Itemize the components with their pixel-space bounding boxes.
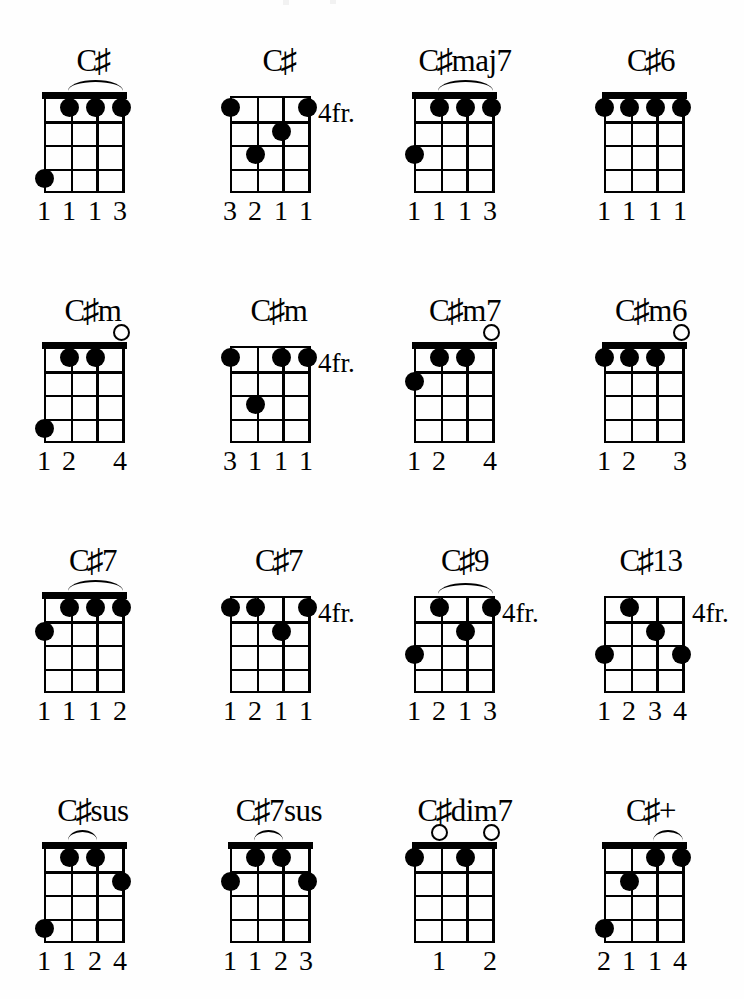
barre-arc [68, 580, 123, 593]
finger-dot [405, 848, 424, 867]
fretboard [414, 846, 495, 943]
finger-dot [35, 419, 54, 438]
finger-number: 1 [295, 696, 317, 726]
nut-bar [228, 842, 313, 849]
chord-cell-Csharp6[interactable]: C♯61111 [558, 40, 744, 290]
chord-root: C [418, 793, 438, 828]
finger-number: 2 [270, 946, 292, 976]
chord-cell-Csharpmaj7[interactable]: C♯maj71113 [372, 40, 558, 290]
chord-row: C♯1113C♯4fr.3211C♯maj71113C♯61111 [0, 40, 744, 290]
chord-cell-Csharp7[interactable]: C♯74fr.1211 [186, 540, 372, 790]
chord-name: C♯maj7 [372, 44, 558, 78]
nut-bar [42, 592, 127, 599]
chord-cell-Csharpdim7[interactable]: C♯dim712 [372, 790, 558, 999]
barre-arc [68, 830, 98, 843]
open-string-marker [431, 824, 448, 841]
chord-diagram: 1111 [604, 96, 686, 196]
finger-numbers: 1112 [39, 696, 131, 730]
fret-line-1 [606, 121, 683, 123]
chord-cell-Csharpm6[interactable]: C♯m6123 [558, 290, 744, 540]
finger-number: 3 [669, 446, 691, 476]
finger-number: 2 [618, 696, 640, 726]
chord-cell-Csharpm7[interactable]: C♯m7124 [372, 290, 558, 540]
barre-arc [438, 80, 493, 93]
finger-number: 4 [109, 446, 131, 476]
nut-bar [42, 342, 127, 349]
finger-dot [35, 622, 54, 641]
open-string-marker [673, 324, 690, 341]
chord-cell-Csharp[interactable]: C♯1113 [0, 40, 186, 290]
fret-line-2 [606, 645, 683, 647]
finger-numbers: 1113 [39, 196, 131, 230]
chord-cell-Csharp[interactable]: C♯4fr.3211 [186, 40, 372, 290]
chord-diagram: 124 [414, 346, 496, 446]
fret-line-3 [416, 669, 493, 671]
barre-arc [68, 80, 123, 93]
open-string-marker [483, 324, 500, 341]
sharp-icon: ♯ [644, 793, 660, 829]
finger-number: 1 [593, 446, 615, 476]
finger-dot [298, 872, 317, 891]
finger-number: 1 [270, 196, 292, 226]
finger-numbers: 1213 [409, 696, 501, 730]
fret-line-2 [606, 895, 683, 897]
nut-bar [602, 842, 687, 849]
sharp-icon: ♯ [459, 543, 475, 579]
fret-line-1 [416, 121, 493, 123]
fret-line-1 [46, 871, 123, 873]
finger-number: 2 [58, 446, 80, 476]
finger-dot [35, 919, 54, 938]
chord-name: C♯ [186, 44, 372, 78]
open-string-marker [113, 324, 130, 341]
chord-chart-page: C♯1113C♯4fr.3211C♯maj71113C♯61111C♯m124C… [0, 0, 744, 999]
chord-diagram: 124 [44, 346, 126, 446]
finger-dot [112, 598, 131, 617]
finger-number: 1 [403, 196, 425, 226]
fret-position-label: 4fr. [318, 600, 355, 627]
chord-suffix: 7 [102, 543, 117, 578]
sharp-icon: ♯ [437, 43, 453, 79]
chord-cell-Csharp13[interactable]: C♯134fr.1234 [558, 540, 744, 790]
sharp-icon: ♯ [645, 43, 661, 79]
finger-dot [595, 645, 614, 664]
chord-suffix: + [659, 793, 676, 828]
fretboard [604, 346, 685, 443]
fret-line-2 [232, 895, 309, 897]
chord-diagram: 4fr.1234 [604, 596, 686, 696]
chord-name: C♯6 [558, 44, 744, 78]
chord-cell-Csharpsus[interactable]: C♯sus1124 [0, 790, 186, 999]
chord-name: C♯7 [186, 544, 372, 578]
fret-line-1 [606, 371, 683, 373]
chord-suffix: maj7 [452, 43, 512, 78]
chord-diagram: 1113 [44, 96, 126, 196]
fret-line-3 [606, 419, 683, 421]
chord-cell-Csharp7sus[interactable]: C♯7sus1123 [186, 790, 372, 999]
finger-numbers: 124 [39, 446, 131, 480]
chord-cell-Csharp9[interactable]: C♯94fr.1213 [372, 540, 558, 790]
chord-cell-Csharpplus[interactable]: C♯+2114 [558, 790, 744, 999]
chord-cell-Csharpm[interactable]: C♯m4fr.3111 [186, 290, 372, 540]
fret-line-3 [46, 419, 123, 421]
finger-number: 1 [295, 446, 317, 476]
chord-diagram: 4fr.3111 [230, 346, 312, 446]
fret-line-2 [416, 895, 493, 897]
barre-arc [254, 830, 284, 843]
chord-suffix: sus [91, 793, 129, 828]
finger-number: 1 [33, 446, 55, 476]
fret-line-3 [416, 919, 493, 921]
finger-number: 3 [109, 196, 131, 226]
fret-line-1 [232, 871, 309, 873]
finger-dot [298, 598, 317, 617]
fret-line-3 [606, 919, 683, 921]
chord-diagram: 1112 [44, 596, 126, 696]
finger-dot [35, 169, 54, 188]
finger-number: 1 [295, 196, 317, 226]
chord-row: C♯71112C♯74fr.1211C♯94fr.1213C♯134fr.123… [0, 540, 744, 790]
chord-cell-Csharp7[interactable]: C♯71112 [0, 540, 186, 790]
fret-line-2 [232, 395, 309, 397]
chord-row: C♯sus1124C♯7sus1123C♯dim712C♯+2114 [0, 790, 744, 999]
sharp-icon: ♯ [269, 293, 285, 329]
chord-row: C♯m124C♯m4fr.3111C♯m7124C♯m6123 [0, 290, 744, 540]
chord-cell-Csharpm[interactable]: C♯m124 [0, 290, 186, 540]
sharp-icon: ♯ [87, 543, 103, 579]
